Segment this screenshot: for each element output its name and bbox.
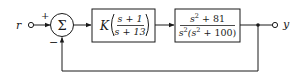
output-label: y [282,18,290,31]
plant-num-rest: + 81 [199,13,225,24]
summing-junction: Σ [51,14,74,37]
controller-numerator: s + 1 [118,13,143,24]
controller-block: K s + 1 s + 13 [92,9,155,42]
plant-den-paren: (s [188,27,197,38]
plant-denominator: s2(s2 + 100) [179,26,237,38]
output-terminal [272,22,277,27]
minus-sign: − [49,36,58,49]
input-terminal [28,22,33,27]
controller-gain: K [99,19,110,33]
plus-sign: + [41,10,49,21]
controller-denominator: s + 13 [115,26,146,37]
plant-block: s2 + 81 s2(s2 + 100) [175,9,240,42]
sigma-symbol: Σ [57,18,66,33]
input-label: r [16,19,22,32]
block-diagram: r + − Σ K s + 1 s + 13 s2 + 81 s2(s2 + 1… [0,0,307,76]
plant-den-rest: + 100) [200,27,236,38]
